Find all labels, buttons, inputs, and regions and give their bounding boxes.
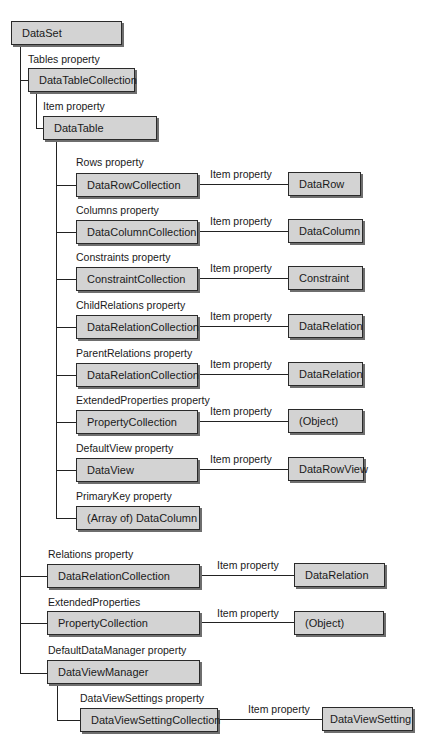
item-line-dataviewsetting <box>218 719 323 720</box>
connector-defaultview <box>56 470 76 471</box>
label-rows-property: Rows property <box>76 156 144 168</box>
node-dataviewsettingcollection: DataViewSettingCollection <box>80 708 218 732</box>
label-item-property-rows: Item property <box>210 168 272 180</box>
node-dataview: DataView <box>76 458 198 482</box>
datatable-trunk-line <box>56 140 57 519</box>
label-item-property-columns: Item property <box>210 215 272 227</box>
dtc-trunk-line <box>36 92 37 128</box>
label-item-property-childrelations: Item property <box>210 310 272 322</box>
item-line-parentrelations <box>198 374 288 375</box>
label-item-property-dtc: Item property <box>43 100 105 112</box>
node-datacolumn: DataColumn <box>288 219 363 243</box>
label-item-property-dataviewsettings: Item property <box>248 703 310 715</box>
label-item-property-extprops-ds: Item property <box>217 607 279 619</box>
label-tables-property: Tables property <box>28 53 100 65</box>
node-constraint: Constraint <box>288 266 363 290</box>
node-datatablecollection: DataTableCollection <box>28 68 135 92</box>
label-extendedproperties-ds: ExtendedProperties <box>48 596 140 608</box>
item-line-relations <box>200 575 295 576</box>
dataset-trunk-line <box>20 45 21 674</box>
label-item-property-constraints: Item property <box>210 262 272 274</box>
label-defaultdatamanager-property: DefaultDataManager property <box>48 644 186 656</box>
connector-primarykey <box>56 518 76 519</box>
node-datatable: DataTable <box>43 116 157 140</box>
connector-extprops-table <box>56 422 76 423</box>
label-constraints-property: Constraints property <box>76 251 171 263</box>
item-line-extprops-ds <box>200 622 295 623</box>
label-item-property-relations: Item property <box>217 559 279 571</box>
connector-extprops-ds <box>20 623 48 624</box>
node-table-object: (Object) <box>288 409 363 433</box>
node-parentrelations-collection: DataRelationCollection <box>76 363 198 387</box>
node-dataviewmanager: DataViewManager <box>47 660 200 684</box>
label-dataviewsettings-property: DataViewSettings property <box>80 692 204 704</box>
node-relations-item: DataRelation <box>294 563 385 587</box>
label-relations-property: Relations property <box>48 548 133 560</box>
label-columns-property: Columns property <box>76 204 159 216</box>
label-childrelations-property: ChildRelations property <box>76 299 185 311</box>
connector-relations <box>20 576 48 577</box>
node-table-propertycollection: PropertyCollection <box>76 410 198 434</box>
node-datarow: DataRow <box>288 172 361 196</box>
connector-parentrelations <box>56 375 76 376</box>
item-line-defaultview <box>198 469 288 470</box>
node-ds-propertycollection: PropertyCollection <box>47 611 200 635</box>
item-line-childrelations <box>198 326 288 327</box>
node-ds-object: (Object) <box>294 611 384 635</box>
connector-columns <box>56 232 76 233</box>
node-datarowview: DataRowView <box>288 457 364 481</box>
node-primarykey: (Array of) DataColumn <box>76 506 200 530</box>
label-item-property-parentrelations: Item property <box>210 358 272 370</box>
label-primarykey-property: PrimaryKey property <box>76 490 172 502</box>
item-line-columns <box>198 231 288 232</box>
label-parentrelations-property: ParentRelations property <box>76 347 192 359</box>
label-item-property-extprops-table: Item property <box>210 405 272 417</box>
label-extendedproperties-table: ExtendedProperties property <box>76 394 210 406</box>
node-datarowcollection: DataRowCollection <box>76 173 198 197</box>
item-line-constraints <box>198 278 288 279</box>
node-childrelations-collection: DataRelationCollection <box>76 315 198 339</box>
node-parentrelations-item: DataRelation <box>288 362 363 386</box>
item-line-rows <box>198 184 288 185</box>
node-childrelations-item: DataRelation <box>288 314 363 338</box>
dvm-trunk-line <box>57 684 58 720</box>
node-datacolumncollection: DataColumnCollection <box>76 220 198 244</box>
node-constraintcollection: ConstraintCollection <box>76 267 198 291</box>
label-item-property-defaultview: Item property <box>210 453 272 465</box>
node-dataviewsetting: DataViewSetting <box>322 707 413 731</box>
connector-dvm-dvsc <box>57 720 81 721</box>
item-line-extprops-table <box>198 421 288 422</box>
connector-childrelations <box>56 327 76 328</box>
connector-constraints <box>56 279 76 280</box>
node-relations-collection: DataRelationCollection <box>47 564 200 588</box>
label-defaultview-property: DefaultView property <box>76 442 173 454</box>
node-dataset: DataSet <box>11 21 122 45</box>
connector-rows <box>56 185 76 186</box>
connector-dataviewmanager <box>20 673 48 674</box>
